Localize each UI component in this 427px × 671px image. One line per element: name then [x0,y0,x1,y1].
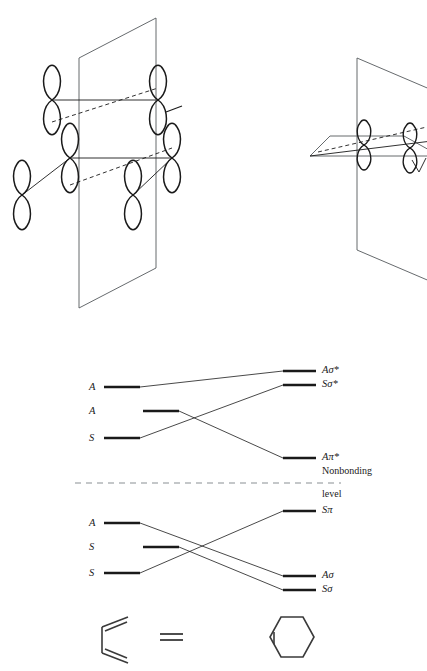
reaction-scheme-layer [0,0,427,671]
ethylene-equals-symbol [160,634,183,640]
cyclohexene-structure [270,617,314,657]
butadiene-structure [102,617,128,663]
orbital-correlation-figure: A A S A S S Aσ* Sσ* Aπ* Sπ Aσ Sσ Nonbond… [0,0,427,671]
